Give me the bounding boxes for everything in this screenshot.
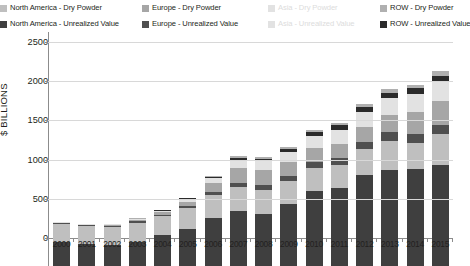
- bar-segment[interactable]: [407, 134, 424, 143]
- y-axis-ticks: 05001000150020002500: [0, 32, 48, 266]
- bar-series-group: [49, 32, 453, 266]
- y-axis-tickmark: [45, 81, 48, 82]
- gridline: [48, 160, 453, 161]
- legend-item[interactable]: ROW - Unrealized Value: [380, 20, 459, 28]
- bar-column[interactable]: [352, 32, 377, 266]
- x-axis-tick-label: 2007: [226, 239, 251, 255]
- legend-item-label: Asia - Unrealized Value: [278, 20, 355, 28]
- bar-segment[interactable]: [381, 141, 398, 170]
- legend-item-label: North America - Unrealized Value: [10, 20, 119, 28]
- bar-segment[interactable]: [255, 190, 272, 214]
- bar-column[interactable]: [226, 32, 251, 266]
- legend-swatch-icon: [268, 21, 275, 28]
- x-axis-tick-label: 2014: [403, 239, 428, 255]
- bar-column[interactable]: [302, 32, 327, 266]
- legend-swatch-icon: [380, 5, 387, 12]
- bar-segment[interactable]: [205, 183, 222, 192]
- bar-column[interactable]: [175, 32, 200, 266]
- bar-segment[interactable]: [306, 168, 323, 191]
- bar-segment[interactable]: [356, 149, 373, 175]
- bar-segment[interactable]: [381, 132, 398, 141]
- bar-segment[interactable]: [432, 82, 449, 89]
- gridline: [48, 199, 453, 200]
- bar-column[interactable]: [276, 32, 301, 266]
- bar-column[interactable]: [100, 32, 125, 266]
- x-axis-tick-label: 2015: [428, 239, 453, 255]
- bar-segment[interactable]: [280, 204, 297, 266]
- x-axis-tick-label: 2003: [125, 239, 150, 255]
- bar-segment[interactable]: [356, 117, 373, 126]
- x-axis-tick-label: 2011: [327, 239, 352, 255]
- gridline: [48, 120, 453, 121]
- x-axis-tick-label: 2009: [276, 239, 301, 255]
- bar-column[interactable]: [403, 32, 428, 266]
- bar-segment[interactable]: [154, 216, 171, 235]
- y-axis-tickmark: [45, 120, 48, 121]
- legend-item-label: North America - Dry Powder: [10, 4, 102, 12]
- bar-column[interactable]: [201, 32, 226, 266]
- bar-segment[interactable]: [280, 162, 297, 176]
- bar-segment[interactable]: [280, 181, 297, 204]
- legend-item[interactable]: Asia - Dry Powder: [268, 4, 380, 12]
- legend-swatch-icon: [380, 21, 387, 28]
- legend-item-label: ROW - Dry Powder: [390, 4, 453, 12]
- bar-segment[interactable]: [432, 125, 449, 135]
- bar-segment[interactable]: [381, 105, 398, 115]
- bar-segment[interactable]: [381, 115, 398, 132]
- stacked-bar[interactable]: [432, 71, 449, 266]
- bar-segment[interactable]: [356, 142, 373, 149]
- x-axis-tick-label: 2004: [150, 239, 175, 255]
- legend-swatch-icon: [268, 5, 275, 12]
- bar-segment[interactable]: [432, 89, 449, 101]
- y-axis-tick-label: 2000: [8, 76, 48, 86]
- bar-segment[interactable]: [179, 208, 196, 229]
- stacked-bar[interactable]: [154, 210, 171, 266]
- bar-column[interactable]: [428, 32, 453, 266]
- bar-segment[interactable]: [331, 135, 348, 144]
- legend-item[interactable]: Europe - Unrealized Value: [142, 20, 268, 28]
- y-axis-tickmark: [45, 160, 48, 161]
- chart-legend: North America - Dry PowderEurope - Dry P…: [0, 0, 459, 32]
- y-axis-tickmark: [45, 42, 48, 43]
- y-axis-tick-label: 1000: [8, 155, 48, 165]
- legend-swatch-icon: [0, 5, 7, 12]
- bar-column[interactable]: [377, 32, 402, 266]
- bar-segment[interactable]: [407, 94, 424, 101]
- legend-item[interactable]: North America - Dry Powder: [0, 4, 142, 12]
- bar-column[interactable]: [125, 32, 150, 266]
- bar-segment[interactable]: [407, 101, 424, 112]
- x-axis-tick-label: 2013: [377, 239, 402, 255]
- x-axis-tick-label: 2001: [74, 239, 99, 255]
- x-axis-tick-label: 2002: [100, 239, 125, 255]
- legend-swatch-icon: [142, 5, 149, 12]
- legend-item-label: ROW - Unrealized Value: [390, 20, 470, 28]
- bar-column[interactable]: [327, 32, 352, 266]
- legend-item[interactable]: Europe - Dry Powder: [142, 4, 268, 12]
- bar-segment[interactable]: [255, 170, 272, 185]
- x-axis-labels: 2000200120022003200420052006200720082009…: [49, 239, 453, 255]
- legend-swatch-icon: [0, 21, 7, 28]
- legend-item[interactable]: Asia - Unrealized Value: [268, 20, 380, 28]
- bar-column[interactable]: [150, 32, 175, 266]
- x-axis-tick-label: 2008: [251, 239, 276, 255]
- plot-area: $ BILLIONS 05001000150020002500 20002001…: [0, 32, 459, 266]
- x-axis-tick-label: 2006: [201, 239, 226, 255]
- legend-item[interactable]: ROW - Dry Powder: [380, 4, 459, 12]
- stacked-bar[interactable]: [179, 198, 196, 266]
- bar-segment[interactable]: [331, 144, 348, 159]
- x-axis-tick-label: 2005: [175, 239, 200, 255]
- bar-segment[interactable]: [356, 127, 373, 142]
- bar-segment[interactable]: [407, 143, 424, 169]
- bar-segment[interactable]: [306, 141, 323, 148]
- bar-segment[interactable]: [230, 168, 247, 183]
- bar-segment[interactable]: [407, 112, 424, 133]
- bar-column[interactable]: [251, 32, 276, 266]
- legend-item-label: Europe - Dry Powder: [152, 4, 221, 12]
- legend-item[interactable]: North America - Unrealized Value: [0, 20, 142, 28]
- bar-column[interactable]: [49, 32, 74, 266]
- y-axis-tick-label: 1500: [8, 115, 48, 125]
- bar-segment[interactable]: [331, 165, 348, 189]
- x-axis-tick-label: 2012: [352, 239, 377, 255]
- bar-column[interactable]: [74, 32, 99, 266]
